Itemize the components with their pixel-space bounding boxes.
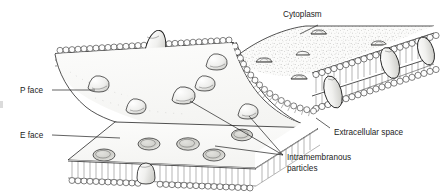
scan-edge-artifact — [0, 101, 3, 108]
label-p-face: P face — [20, 86, 44, 95]
label-cytoplasm: Cytoplasm — [283, 10, 322, 19]
label-intramembranous-particles-line2: particles — [287, 164, 318, 173]
e-face-pit-3 — [177, 138, 200, 150]
diagram-canvas: Cytoplasm P face E face Extracellular sp… — [0, 0, 441, 196]
label-intramembranous-particles-line1: Intramembranous — [287, 153, 351, 162]
e-face-pit-2 — [138, 138, 160, 150]
transmembrane-protein-bottom — [137, 163, 155, 184]
label-extracellular-space: Extracellular space — [334, 128, 404, 137]
leader-extracellular-space — [316, 118, 330, 128]
label-e-face: E face — [20, 131, 44, 140]
e-face-pit-4 — [203, 149, 225, 161]
e-face-pit-1 — [93, 149, 115, 161]
freeze-fracture-membrane-figure: Cytoplasm P face E face Extracellular sp… — [0, 0, 441, 196]
